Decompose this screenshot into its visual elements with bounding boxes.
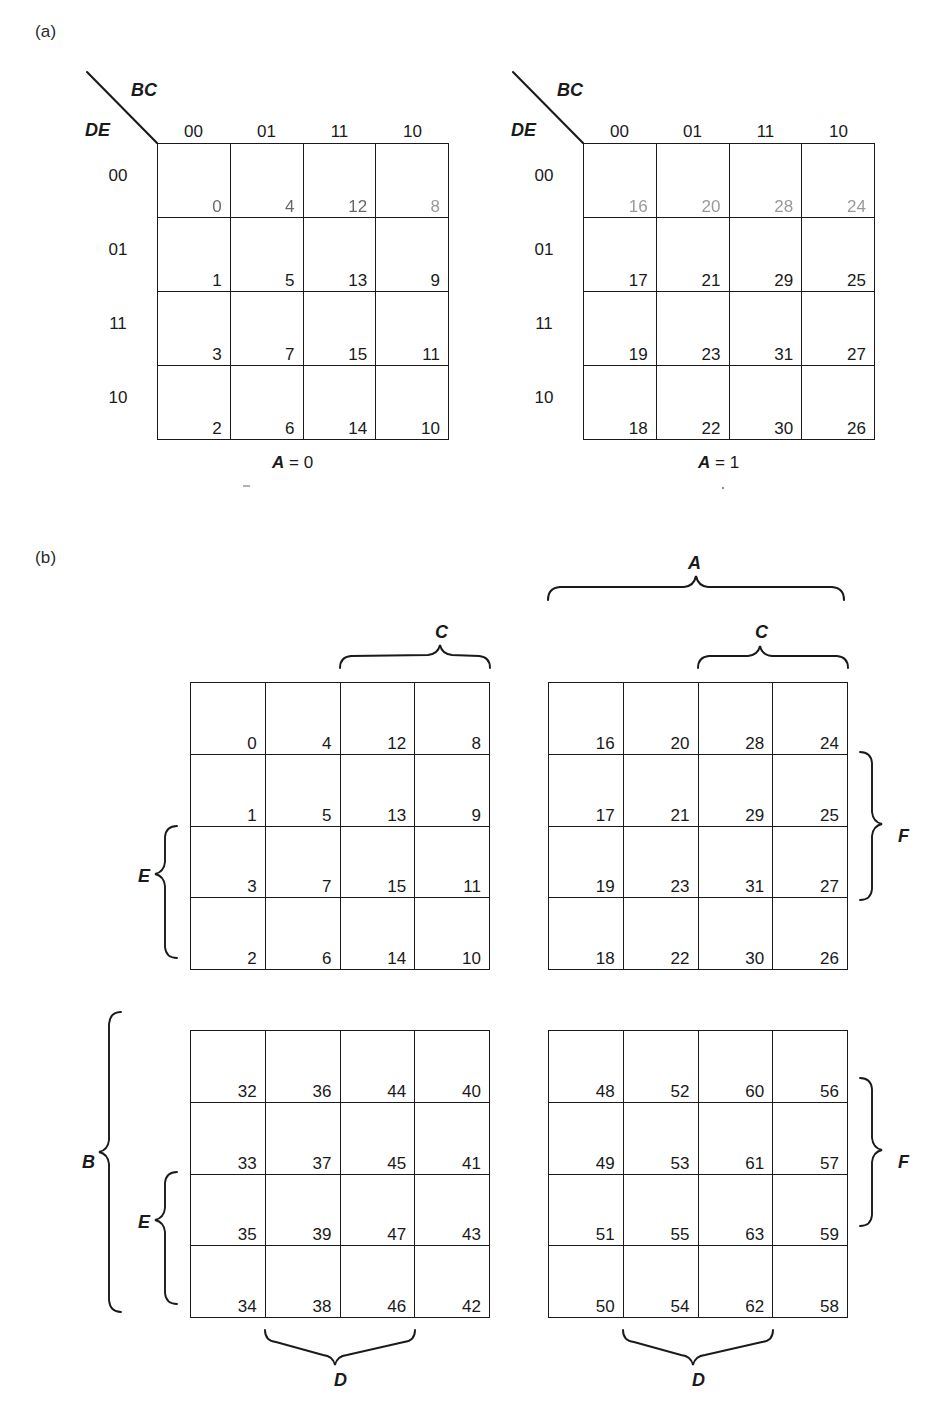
table-cell[interactable]: 63 [699, 1175, 774, 1247]
table-cell[interactable]: 0 [191, 683, 266, 755]
table-cell[interactable]: 8 [415, 683, 490, 755]
table-cell[interactable]: 20 [657, 144, 730, 218]
table-cell[interactable]: 55 [624, 1175, 699, 1247]
table-cell[interactable]: 22 [624, 898, 699, 970]
table-cell[interactable]: 19 [584, 292, 657, 366]
table-cell[interactable]: 2 [191, 898, 266, 970]
table-cell[interactable]: 6 [231, 366, 304, 440]
table-cell[interactable]: 34 [191, 1246, 266, 1318]
table-cell[interactable]: 50 [549, 1246, 624, 1318]
table-cell[interactable]: 27 [802, 292, 875, 366]
table-cell[interactable]: 42 [415, 1246, 490, 1318]
table-cell[interactable]: 35 [191, 1175, 266, 1247]
table-cell[interactable]: 3 [191, 827, 266, 899]
table-cell[interactable]: 9 [376, 218, 449, 292]
table-cell[interactable]: 32 [191, 1031, 266, 1103]
table-cell[interactable]: 31 [699, 827, 774, 899]
table-cell[interactable]: 0 [158, 144, 231, 218]
table-cell[interactable]: 61 [699, 1103, 774, 1175]
table-cell[interactable]: 12 [304, 144, 377, 218]
table-cell[interactable]: 4 [231, 144, 304, 218]
table-cell[interactable]: 49 [549, 1103, 624, 1175]
table-cell[interactable]: 58 [773, 1246, 848, 1318]
table-cell[interactable]: 7 [266, 827, 341, 899]
table-cell[interactable]: 11 [376, 292, 449, 366]
table-cell[interactable]: 13 [304, 218, 377, 292]
table-cell[interactable]: 5 [231, 218, 304, 292]
table-cell[interactable]: 7 [231, 292, 304, 366]
table-cell[interactable]: 54 [624, 1246, 699, 1318]
table-cell[interactable]: 41 [415, 1103, 490, 1175]
table-cell[interactable]: 17 [549, 755, 624, 827]
table-cell[interactable]: 43 [415, 1175, 490, 1247]
table-cell[interactable]: 51 [549, 1175, 624, 1247]
table-cell[interactable]: 33 [191, 1103, 266, 1175]
table-cell[interactable]: 22 [657, 366, 730, 440]
table-cell[interactable]: 62 [699, 1246, 774, 1318]
table-cell[interactable]: 1 [158, 218, 231, 292]
table-cell[interactable]: 25 [773, 755, 848, 827]
table-cell[interactable]: 45 [341, 1103, 416, 1175]
table-cell[interactable]: 21 [657, 218, 730, 292]
table-cell[interactable]: 44 [341, 1031, 416, 1103]
table-cell[interactable]: 16 [549, 683, 624, 755]
table-cell[interactable]: 5 [266, 755, 341, 827]
table-cell[interactable]: 19 [549, 827, 624, 899]
table-cell[interactable]: 39 [266, 1175, 341, 1247]
table-cell[interactable]: 36 [266, 1031, 341, 1103]
table-cell[interactable]: 30 [699, 898, 774, 970]
table-cell[interactable]: 1 [191, 755, 266, 827]
table-cell[interactable]: 13 [341, 755, 416, 827]
table-cell[interactable]: 23 [657, 292, 730, 366]
table-cell[interactable]: 26 [802, 366, 875, 440]
kmap-b-top-right-grid: 16 20 28 24 17 21 29 25 19 23 31 27 18 2… [548, 682, 848, 970]
table-cell[interactable]: 30 [730, 366, 803, 440]
table-cell[interactable]: 20 [624, 683, 699, 755]
table-cell[interactable]: 23 [624, 827, 699, 899]
kmap-b0-cell-0-3: 8 [472, 735, 481, 752]
table-cell[interactable]: 3 [158, 292, 231, 366]
table-cell[interactable]: 46 [341, 1246, 416, 1318]
table-cell[interactable]: 26 [773, 898, 848, 970]
table-cell[interactable]: 21 [624, 755, 699, 827]
table-cell[interactable]: 10 [376, 366, 449, 440]
table-cell[interactable]: 16 [584, 144, 657, 218]
table-cell[interactable]: 60 [699, 1031, 774, 1103]
table-cell[interactable]: 12 [341, 683, 416, 755]
table-cell[interactable]: 28 [699, 683, 774, 755]
kmap-a0-cell-2-2: 15 [348, 346, 367, 363]
table-cell[interactable]: 28 [730, 144, 803, 218]
table-cell[interactable]: 24 [773, 683, 848, 755]
table-cell[interactable]: 47 [341, 1175, 416, 1247]
table-cell[interactable]: 37 [266, 1103, 341, 1175]
table-cell[interactable]: 8 [376, 144, 449, 218]
table-cell[interactable]: 24 [802, 144, 875, 218]
table-cell[interactable]: 59 [773, 1175, 848, 1247]
table-cell[interactable]: 14 [341, 898, 416, 970]
table-cell[interactable]: 15 [304, 292, 377, 366]
table-cell[interactable]: 29 [699, 755, 774, 827]
table-cell[interactable]: 56 [773, 1031, 848, 1103]
table-cell[interactable]: 27 [773, 827, 848, 899]
table-cell[interactable]: 18 [584, 366, 657, 440]
table-cell[interactable]: 15 [341, 827, 416, 899]
table-cell[interactable]: 4 [266, 683, 341, 755]
table-cell[interactable]: 48 [549, 1031, 624, 1103]
table-cell[interactable]: 14 [304, 366, 377, 440]
table-cell[interactable]: 52 [624, 1031, 699, 1103]
table-cell[interactable]: 57 [773, 1103, 848, 1175]
table-cell[interactable]: 11 [415, 827, 490, 899]
table-cell[interactable]: 29 [730, 218, 803, 292]
kmap-b3-cell-2-0: 51 [596, 1226, 615, 1243]
table-cell[interactable]: 38 [266, 1246, 341, 1318]
table-cell[interactable]: 18 [549, 898, 624, 970]
table-cell[interactable]: 6 [266, 898, 341, 970]
table-cell[interactable]: 10 [415, 898, 490, 970]
table-cell[interactable]: 2 [158, 366, 231, 440]
table-cell[interactable]: 53 [624, 1103, 699, 1175]
table-cell[interactable]: 17 [584, 218, 657, 292]
table-cell[interactable]: 9 [415, 755, 490, 827]
table-cell[interactable]: 40 [415, 1031, 490, 1103]
table-cell[interactable]: 25 [802, 218, 875, 292]
table-cell[interactable]: 31 [730, 292, 803, 366]
